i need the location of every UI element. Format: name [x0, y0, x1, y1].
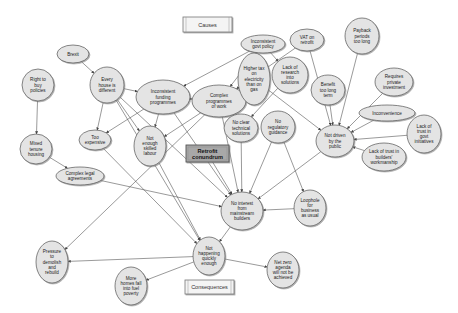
node-every-house: Everyhouse isdifferent — [90, 67, 124, 103]
node-too-expensive: Tooexpensive — [79, 130, 111, 150]
node-payback: Paybackperiodstoo long — [345, 18, 379, 54]
edge-core-to-no_interest — [213, 162, 232, 194]
edge-every_house-to-too_expensive — [97, 103, 103, 131]
node-label-line: labour — [144, 151, 157, 156]
edge-legal-to-no_interest — [101, 181, 222, 207]
node-label-line: guidance — [269, 130, 288, 135]
node-skilled-labour: Notenoughskilledlabour — [134, 126, 166, 166]
node-label-line: workmanship — [370, 160, 398, 165]
edge-trust_builders-to-not_driven — [353, 147, 365, 151]
node-label-line: solutions — [281, 80, 300, 85]
node-label-line: retrofit — [300, 40, 314, 45]
edge-govt_policy-to-research — [270, 53, 278, 62]
node-benefit: Benefittoo longterm — [311, 75, 345, 105]
node-govt-policy: Inconsistentgovt policy — [241, 35, 285, 53]
node-label-line: builders — [234, 216, 251, 221]
edge-not_happening-to-demolish — [68, 257, 193, 262]
node-label-line: Inconvenience — [372, 111, 402, 116]
edge-no_reg-to-no_interest — [250, 142, 272, 194]
node-complex-prog: Complexprogrammesof work — [192, 85, 246, 117]
node-no-clear-tech: No cleartechnicalsolutions — [224, 114, 258, 142]
node-label-line: Brexit — [67, 52, 79, 57]
node-no-reg: Noregulatoryguidance — [261, 111, 295, 143]
edge-benefit-to-not_driven — [330, 105, 333, 125]
edge-not_happening-to-fuel_poverty — [146, 262, 194, 280]
node-label-line: achieved — [274, 275, 293, 280]
node-demolish: Pressuretodemolishandrebuild — [36, 241, 68, 283]
node-label-line: different — [99, 88, 116, 93]
node-not-happening: Nothappeningquicklyenough — [193, 237, 225, 275]
edge-complex_prog-to-skilled_labour — [164, 113, 201, 137]
causes-label: Causes — [198, 22, 217, 28]
edge-no_interest-to-not_happening — [220, 227, 231, 242]
node-funding: Inconsistentfundingprogrammes — [136, 80, 190, 114]
node-loophole: Loopholeforbusinessas usual — [294, 190, 326, 226]
edge-mixed_tenure-to-legal — [49, 157, 67, 168]
consequences-label: Consequences — [191, 284, 228, 290]
edge-skilled_labour-to-not_happening — [159, 163, 201, 240]
core-label-line-2: conundrum — [192, 154, 223, 160]
causes-title-box: Causes — [183, 17, 232, 32]
edge-right_to_buy-to-mixed_tenure — [37, 101, 38, 134]
node-label-line: term — [323, 93, 332, 98]
edge-trust_govt-to-not_driven — [354, 135, 407, 139]
node-label-line: poverty — [123, 291, 139, 296]
node-trust-govt: Lack oftrust ingovtinitiatives — [407, 115, 441, 153]
node-label-line: solutions — [232, 131, 251, 136]
node-no-interest: No interestfrommainstreambuilders — [221, 192, 263, 230]
edge-not_happening-to-net_zero — [225, 259, 267, 267]
edge-loophole-to-no_interest — [263, 209, 294, 210]
node-label-line: of work — [212, 104, 228, 109]
node-vat: VAT onretrofit — [290, 29, 324, 51]
node-label-line: public — [329, 144, 342, 149]
node-net-zero: Net zeroagendawill not beachieved — [267, 252, 299, 288]
edge-brexit-to-every_house — [81, 62, 94, 74]
edge-funding-to-skilled_labour — [155, 114, 159, 127]
node-higher-tax: Higher taxonelectricitythan ongas — [238, 53, 270, 105]
node-label-line: rebuild — [45, 270, 59, 275]
node-label-line: gas — [250, 87, 258, 92]
diagram-canvas: Inconsistentgovt policyVAT onretrofitPay… — [0, 0, 458, 313]
edge-no_clear_tech-to-no_interest — [241, 142, 242, 192]
consequences-title-box: Consequences — [185, 280, 234, 294]
core-label-line-1: Retrofit — [198, 148, 218, 154]
node-label-line: enough — [201, 261, 217, 266]
node-label-line: policies — [30, 88, 46, 93]
node-label-line: too long — [354, 39, 371, 44]
node-right-to-buy: Right tobuypolicies — [22, 69, 54, 101]
node-trust-builders: Lack of trust inbuilders'workmanship — [362, 143, 406, 171]
node-label-line: initiatives — [415, 139, 435, 144]
node-inconvenience: Inconvenience — [359, 105, 415, 121]
node-private-inv: Requiresprivateinvestment — [375, 68, 413, 96]
edge-every_house-to-not_happening — [116, 100, 200, 240]
node-label-line: programmes — [150, 100, 176, 105]
causal-loop-diagram: Inconsistentgovt policyVAT onretrofitPay… — [0, 0, 458, 313]
node-label-line: govt policy — [252, 44, 274, 49]
node-fuel-poverty: Morehomes fallinto fuelpoverty — [115, 267, 147, 305]
node-mixed-tenure: Mixedtenurehousing — [20, 134, 52, 164]
node-not-driven: Not drivenby thepublic — [316, 125, 354, 157]
edge-every_house-to-funding — [124, 89, 138, 92]
node-label-line: expensive — [85, 140, 106, 145]
node-label-line: as usual — [301, 213, 318, 218]
node-label-line: agreements — [68, 176, 93, 181]
node-legal: Complex legalagreements — [56, 167, 104, 185]
node-research: Lack ofresearchintosolutions — [272, 57, 308, 93]
edge-every_house-to-skilled_labour — [117, 99, 139, 131]
node-label-line: housing — [28, 152, 45, 157]
node-label-line: investment — [383, 85, 406, 90]
retrofit-conundrum-box: Retrofit conundrum — [186, 145, 229, 162]
node-brexit: Brexit — [57, 45, 89, 63]
